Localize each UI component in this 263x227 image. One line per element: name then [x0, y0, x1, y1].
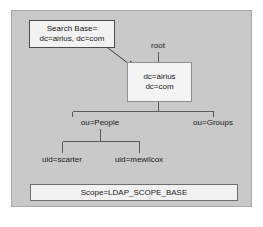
branch-node-people: ou=People: [81, 118, 119, 128]
scope-label: Scope=LDAP_SCOPE_BASE: [81, 188, 188, 198]
search-base-line1: Search Base=: [47, 24, 97, 34]
scope-bar: Scope=LDAP_SCOPE_BASE: [30, 184, 238, 201]
search-base-line2: dc=airius, dc=com: [40, 34, 105, 44]
root-entry-line2: dc=com: [145, 82, 173, 92]
root-entry-node: dc=airius dc=com: [127, 62, 192, 102]
root-label: root: [151, 41, 165, 51]
leaf-node-scarter: uid=scarter: [42, 155, 82, 165]
leaf-node-mewilcox: uid=mewilcox: [115, 155, 163, 165]
branch-node-groups: ou=Groups: [193, 118, 233, 128]
diagram-canvas: Search Base= dc=airius, dc=com root dc=a…: [0, 0, 263, 227]
root-entry-line1: dc=airius: [143, 72, 175, 82]
search-base-callout: Search Base= dc=airius, dc=com: [29, 20, 115, 48]
